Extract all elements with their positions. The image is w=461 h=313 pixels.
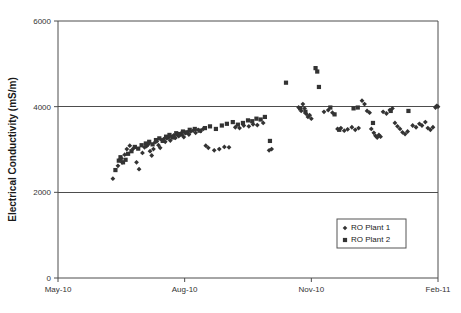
data-point-2-51 bbox=[371, 121, 375, 125]
data-point-2-35 bbox=[250, 119, 254, 123]
data-point-2-46 bbox=[328, 105, 332, 109]
data-point-2-45 bbox=[317, 85, 321, 89]
data-point-2-48 bbox=[337, 128, 341, 132]
data-point-2-12 bbox=[150, 142, 154, 146]
data-point-2-2 bbox=[118, 155, 122, 159]
data-point-2-31 bbox=[231, 120, 235, 124]
data-point-2-23 bbox=[188, 128, 192, 132]
data-point-2-40 bbox=[284, 81, 288, 85]
data-point-2-15 bbox=[161, 139, 165, 143]
chart-legend: RO Plant 1RO Plant 2 bbox=[337, 219, 406, 248]
x-tick-label-0: May-10 bbox=[45, 285, 72, 294]
data-point-2-32 bbox=[236, 123, 240, 127]
data-point-2-6 bbox=[129, 149, 133, 153]
chart-container: 0200040006000 May-10Aug-10Nov-10Feb-11 E… bbox=[0, 0, 461, 313]
data-point-2-37 bbox=[259, 117, 263, 121]
plot-background bbox=[0, 0, 461, 313]
data-point-2-50 bbox=[356, 105, 360, 109]
x-tick-label-1: Aug-10 bbox=[172, 285, 198, 294]
data-point-2-18 bbox=[171, 135, 175, 139]
data-point-2-27 bbox=[208, 124, 212, 128]
data-point-2-0 bbox=[113, 168, 117, 172]
y-tick-label-6000: 6000 bbox=[33, 17, 51, 26]
data-point-2-49 bbox=[351, 106, 355, 110]
y-tick-label-0: 0 bbox=[47, 274, 52, 283]
data-point-2-41 bbox=[298, 106, 302, 110]
legend-marker-square bbox=[343, 238, 347, 242]
legend-label-2: RO Plant 2 bbox=[351, 235, 391, 244]
data-point-2-34 bbox=[246, 118, 250, 122]
data-point-2-44 bbox=[315, 69, 319, 73]
data-point-2-38 bbox=[263, 115, 267, 119]
data-point-2-30 bbox=[225, 122, 229, 126]
x-tick-label-3: Feb-11 bbox=[426, 285, 451, 294]
data-point-2-53 bbox=[406, 109, 410, 113]
data-point-2-47 bbox=[332, 112, 336, 116]
data-point-2-24 bbox=[193, 127, 197, 131]
y-tick-label-4000: 4000 bbox=[33, 103, 51, 112]
data-point-2-9 bbox=[140, 143, 144, 147]
data-point-2-25 bbox=[198, 129, 202, 133]
data-point-2-42 bbox=[303, 110, 307, 114]
y-axis-title: Electrical Conductivity (mS/m) bbox=[7, 77, 18, 221]
data-point-2-52 bbox=[389, 109, 393, 113]
data-point-2-39 bbox=[268, 139, 272, 143]
data-point-2-26 bbox=[203, 126, 207, 130]
x-tick-label-2: Nov-10 bbox=[298, 285, 324, 294]
data-point-2-33 bbox=[241, 121, 245, 125]
data-point-2-29 bbox=[220, 123, 224, 127]
data-point-2-28 bbox=[214, 127, 218, 131]
data-point-2-36 bbox=[254, 117, 258, 121]
legend-label-1: RO Plant 1 bbox=[351, 223, 391, 232]
data-point-2-4 bbox=[123, 158, 127, 162]
scatter-chart: 0200040006000 May-10Aug-10Nov-10Feb-11 E… bbox=[0, 0, 461, 313]
y-tick-label-2000: 2000 bbox=[33, 188, 51, 197]
